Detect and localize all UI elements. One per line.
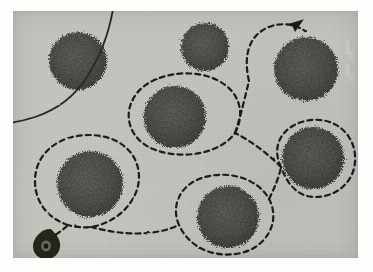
scan-artifact-layer (13, 11, 358, 258)
aerial-photograph (13, 11, 358, 258)
edge-scan-marks (346, 39, 353, 82)
figure-canvas: tree-canopy dashed-survey-route solid-bo… (0, 0, 373, 272)
